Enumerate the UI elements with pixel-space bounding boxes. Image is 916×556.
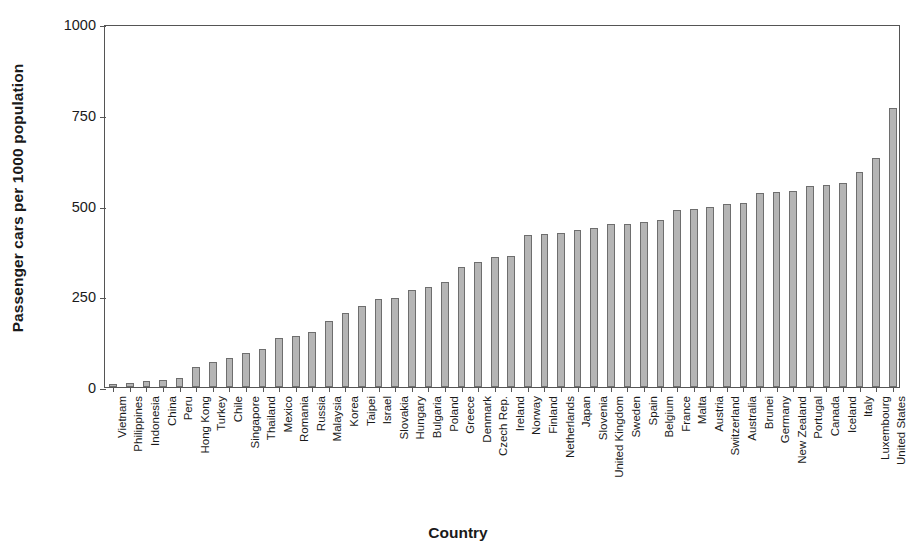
bar <box>806 186 814 387</box>
x-axis-tick-label: Chile <box>233 396 245 422</box>
x-axis-tick-label-text: Slovenia <box>598 396 610 440</box>
bar <box>275 338 283 387</box>
bar <box>839 183 847 387</box>
x-axis-tick-label: Romania <box>299 396 311 442</box>
x-axis-tick-label: Sweden <box>631 396 643 438</box>
bar-chart: Passenger cars per 1000 population 02505… <box>0 0 916 556</box>
bar <box>524 235 532 387</box>
x-axis-tick-label: United Kingdom <box>614 396 626 478</box>
x-axis-tick-label-text: Spain <box>648 396 660 425</box>
x-axis-tick-label: Italy <box>863 396 875 417</box>
x-axis-tick-label: Slovenia <box>598 396 610 440</box>
bar <box>209 362 217 387</box>
bar <box>690 209 698 387</box>
x-axis-tick-label: Germany <box>780 396 792 443</box>
bar <box>706 207 714 387</box>
bar <box>391 298 399 387</box>
x-axis-tick-label-text: Iceland <box>847 396 859 433</box>
x-axis-tick-label-text: Poland <box>449 396 461 432</box>
x-axis-tick-label: New Zealand <box>797 396 809 464</box>
x-axis-tick-label-text: Sweden <box>631 396 643 438</box>
x-axis-tick-label: Austria <box>714 396 726 432</box>
bar <box>507 256 515 387</box>
x-axis-tick-label: Denmark <box>482 396 494 443</box>
x-axis-tick-label: Belgium <box>664 396 676 438</box>
x-axis-tick-label-text: Hungary <box>415 396 427 439</box>
x-axis-tick-label: Slovakia <box>399 396 411 439</box>
y-axis-tick-mark <box>100 389 106 390</box>
x-axis-tick-label-text: Mexico <box>283 396 295 432</box>
x-axis-tick-label: Spain <box>648 396 660 425</box>
x-axis-tick-label: France <box>681 396 693 432</box>
bar <box>176 378 184 387</box>
x-axis-tick-label-text: Bulgaria <box>432 396 444 438</box>
bar <box>823 185 831 387</box>
x-axis-tick-label: Japan <box>581 396 593 427</box>
x-axis-tick-label: Malta <box>697 396 709 424</box>
x-axis-tick-label-text: France <box>681 396 693 432</box>
bar <box>458 267 466 387</box>
x-axis-tick-label: Ireland <box>515 396 527 431</box>
x-axis-tick-label-text: New Zealand <box>797 396 809 464</box>
x-axis-title: Country <box>0 524 916 542</box>
x-axis-tick-label-text: Portugal <box>813 396 825 439</box>
bar <box>425 287 433 387</box>
x-axis-tick-label-text: Belgium <box>664 396 676 438</box>
bar <box>541 234 549 387</box>
x-axis-tick-label: Peru <box>183 396 195 420</box>
x-axis-tick-label-text: Japan <box>581 396 593 427</box>
bar <box>408 290 416 387</box>
y-axis-tick-mark <box>100 26 106 27</box>
y-axis-tick-label: 750 <box>72 108 96 124</box>
y-axis-tick-label: 500 <box>72 199 96 215</box>
bar <box>259 349 267 387</box>
x-axis-tick-label: Bulgaria <box>432 396 444 438</box>
x-axis-tick-label: Greece <box>465 396 477 434</box>
x-axis-tick-label-text: Israel <box>382 396 394 424</box>
y-axis-tick-labels: 02505007501000 <box>34 0 96 400</box>
y-axis-title-text: Passenger cars per 1000 population <box>9 63 27 332</box>
x-axis-tick-label: Indonesia <box>150 396 162 446</box>
x-axis-tick-label-text: Turkey <box>216 396 228 431</box>
x-axis-tick-label-text: Chile <box>233 396 245 422</box>
bar <box>723 204 731 387</box>
x-axis-tick-label-text: Taipei <box>366 396 378 426</box>
x-axis-tick-label: Australia <box>747 396 759 441</box>
x-axis-tick-label-text: Slovakia <box>399 396 411 439</box>
x-axis-tick-label-text: Ireland <box>515 396 527 431</box>
x-axis-tick-label-text: China <box>167 396 179 426</box>
x-axis-tick-label-text: United Kingdom <box>614 396 626 478</box>
x-axis-tick-label-text: Denmark <box>482 396 494 443</box>
x-axis-tick-label: China <box>167 396 179 426</box>
bar <box>242 353 250 387</box>
y-axis-tick-label: 0 <box>88 380 96 396</box>
x-axis-tick-label-text: Finland <box>548 396 560 434</box>
x-axis-tick-label: Mexico <box>283 396 295 432</box>
bar <box>789 191 797 387</box>
x-axis-tick-label: Finland <box>548 396 560 434</box>
x-axis-tick-label-text: Hong Kong <box>200 396 212 454</box>
y-axis-tick-label: 250 <box>72 289 96 305</box>
bar <box>624 224 632 387</box>
x-axis-tick-label-text: Russia <box>316 396 328 431</box>
x-axis-tick-label-text: Philippines <box>133 396 145 452</box>
y-axis-title: Passenger cars per 1000 population <box>4 0 32 395</box>
x-axis-tick-label-text: Czech Rep. <box>498 396 510 456</box>
x-axis-tick-label: Turkey <box>216 396 228 431</box>
x-axis-tick-label: Hungary <box>415 396 427 439</box>
bar <box>474 262 482 387</box>
bar <box>491 257 499 387</box>
x-axis-tick-label-text: Netherlands <box>565 396 577 458</box>
x-axis-tick-label: Luxembourg <box>880 396 892 460</box>
x-axis-tick-label-text: Peru <box>183 396 195 420</box>
bar <box>889 108 897 387</box>
x-axis-tick-label: Israel <box>382 396 394 424</box>
x-axis-tick-label-text: Austria <box>714 396 726 432</box>
x-axis-tick-labels: VietnamPhilippinesIndonesiaChinaPeruHong… <box>104 392 900 517</box>
bar <box>640 222 648 387</box>
bar <box>673 210 681 387</box>
x-axis-tick-label: Brunei <box>764 396 776 429</box>
x-axis-tick-label-text: Indonesia <box>150 396 162 446</box>
x-axis-tick-label-text: Brunei <box>764 396 776 429</box>
x-axis-tick-label-text: Luxembourg <box>880 396 892 460</box>
